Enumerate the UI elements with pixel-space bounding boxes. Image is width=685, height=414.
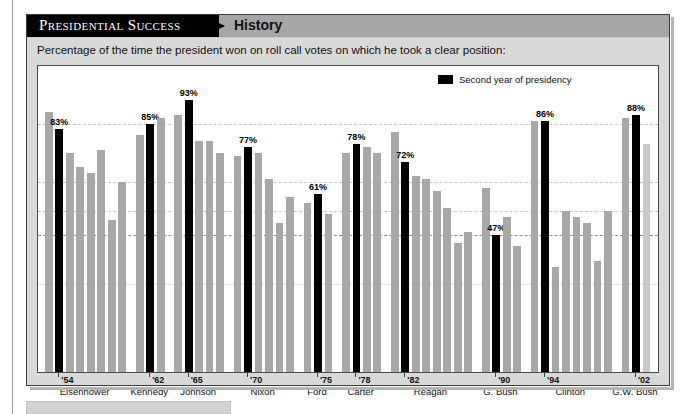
bar-group: 83%85%93%77%61%78%72%47%86%88% <box>45 66 652 372</box>
axis-year-label: '65 <box>191 375 203 385</box>
bar-year <box>373 153 381 372</box>
bar-year <box>622 118 630 372</box>
axis-tick <box>58 373 59 377</box>
bar-year <box>304 203 312 372</box>
bar-second-year <box>55 129 63 372</box>
bar-year <box>573 217 581 372</box>
axis-tick <box>247 373 248 377</box>
bar-second-year <box>632 115 640 372</box>
axis-tick <box>635 373 636 377</box>
bar-year <box>464 232 472 372</box>
x-axis: '54Eisenhower'62Kennedy'65Johnson'70Nixo… <box>37 373 659 399</box>
axis-year-label: '78 <box>358 375 370 385</box>
axis-president-label: Johnson <box>180 386 216 397</box>
axis-year-label: '02 <box>638 375 650 385</box>
axis-year-label: '62 <box>152 375 164 385</box>
axis-tick <box>544 373 545 377</box>
axis-year-label: '90 <box>498 375 510 385</box>
bar-year <box>286 197 294 372</box>
bar-year <box>412 176 420 372</box>
bar-year <box>443 208 451 372</box>
card-header-banner: Presidential Success History <box>27 15 669 38</box>
axis-tick <box>317 373 318 377</box>
bar-year <box>643 144 651 372</box>
axis-president-label: G.W. Bush <box>612 386 657 397</box>
bar-year <box>513 246 521 372</box>
chart-legend: Second year of presidency <box>438 74 571 85</box>
bar-year <box>76 167 84 372</box>
bar-value-label: 72% <box>396 150 414 160</box>
bar-second-year <box>353 144 361 372</box>
axis-year-label: '54 <box>61 375 73 385</box>
bar-year <box>503 217 511 372</box>
bar-value-label: 83% <box>50 117 68 127</box>
bar-year <box>583 223 591 372</box>
bar-year <box>174 115 182 372</box>
page-column-rule-lower <box>12 372 13 414</box>
bar-year <box>276 223 284 372</box>
banner-arrow-icon <box>203 15 225 37</box>
axis-tick <box>404 373 405 377</box>
axis-year-label: '82 <box>407 375 419 385</box>
bar-second-year <box>541 121 549 372</box>
axis-tick <box>149 373 150 377</box>
bar-year <box>108 220 116 372</box>
bar-second-year <box>146 124 154 372</box>
bar-value-label: 61% <box>309 182 327 192</box>
legend-swatch-icon <box>438 75 453 84</box>
axis-tick <box>188 373 189 377</box>
axis-tick <box>355 373 356 377</box>
axis-year-label: '70 <box>250 375 262 385</box>
bar-value-label: 78% <box>347 132 365 142</box>
plot-canvas: 83%85%93%77%61%78%72%47%86%88% <box>38 66 658 372</box>
bar-year <box>391 132 399 372</box>
banner-title: Presidential Success <box>39 17 181 34</box>
bar-second-year <box>185 100 193 372</box>
chart-subtitle: Percentage of the time the president won… <box>37 44 506 56</box>
bar-year <box>363 147 371 372</box>
bar-year <box>531 121 539 372</box>
axis-president-label: Ford <box>307 386 327 397</box>
bar-year <box>562 211 570 372</box>
axis-president-label: G. Bush <box>483 386 517 397</box>
banner-section-label: History <box>234 17 282 33</box>
bar-year <box>45 112 53 372</box>
card-shadow <box>671 17 674 389</box>
bar-year <box>255 153 263 372</box>
bar-year <box>206 141 214 372</box>
bar-year <box>234 156 242 372</box>
axis-tick <box>495 373 496 377</box>
bar-year <box>594 261 602 372</box>
bar-year <box>97 150 105 372</box>
bar-year <box>265 179 273 372</box>
bar-year <box>216 153 224 372</box>
bar-year <box>552 267 560 372</box>
bar-year <box>118 182 126 372</box>
bar-year <box>136 135 144 372</box>
bar-year <box>66 153 74 372</box>
plot-area: 83%85%93%77%61%78%72%47%86%88% Second ye… <box>37 65 659 373</box>
bar-year <box>454 243 462 372</box>
axis-president-label: Eisenhower <box>60 386 110 397</box>
bar-year <box>195 141 203 372</box>
bar-second-year <box>314 194 322 372</box>
bar-value-label: 88% <box>627 103 645 113</box>
chart-card: Presidential Success History Percentage … <box>26 14 670 386</box>
bar-year <box>157 118 165 372</box>
axis-year-label: '94 <box>547 375 559 385</box>
axis-president-label: Reagan <box>414 386 447 397</box>
axis-president-label: Nixon <box>251 386 275 397</box>
axis-president-label: Kennedy <box>130 386 168 397</box>
bar-year <box>325 214 333 372</box>
bar-year <box>422 179 430 372</box>
bar-second-year <box>492 235 500 372</box>
axis-president-label: Clinton <box>555 386 585 397</box>
bar-year <box>87 173 95 372</box>
page-root: Presidential Success History Percentage … <box>0 0 685 414</box>
bar-second-year <box>244 147 252 372</box>
bar-year <box>433 191 441 372</box>
page-column-rule <box>12 0 13 414</box>
bar-year <box>342 153 350 372</box>
legend-label: Second year of presidency <box>459 74 571 85</box>
bar-year <box>482 188 490 372</box>
